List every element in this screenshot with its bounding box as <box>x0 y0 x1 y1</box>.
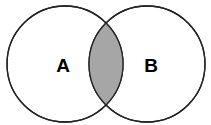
set-a-label: A <box>56 55 70 76</box>
venn-diagram: A B <box>0 0 211 125</box>
set-b-label: B <box>144 55 158 76</box>
